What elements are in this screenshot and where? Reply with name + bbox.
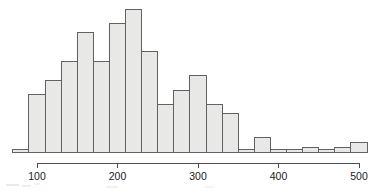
histogram-bar [29, 95, 45, 152]
histogram-bar [190, 76, 206, 152]
histogram-plot-area: 100200300400500 [0, 0, 374, 195]
histogram-bar [77, 33, 93, 152]
histogram-bar [303, 147, 319, 152]
histogram-figure: 100200300400500 [0, 0, 374, 195]
histogram-bar [13, 150, 29, 152]
histogram-bar [158, 104, 174, 152]
x-axis-tick-label: 500 [350, 170, 368, 182]
histogram-bar [93, 61, 109, 152]
histogram-bar [351, 142, 367, 152]
histogram-bar [287, 150, 303, 152]
x-axis-tick-label: 200 [109, 170, 127, 182]
histogram-bar [254, 138, 270, 152]
histogram-bar [126, 9, 142, 152]
histogram-bar [174, 90, 190, 152]
histogram-bar [319, 150, 335, 152]
x-axis-tick-label: 400 [270, 170, 288, 182]
histogram-bar [238, 150, 254, 152]
histogram-bar [109, 23, 125, 152]
histogram-bar [206, 104, 222, 152]
histogram-bar [270, 150, 286, 152]
histogram-bar [61, 61, 77, 152]
histogram-bar [142, 52, 158, 152]
x-axis-tick-label: 300 [189, 170, 207, 182]
x-axis-tick-label: 100 [28, 170, 46, 182]
histogram-bar [335, 147, 351, 152]
histogram-bar [45, 81, 61, 153]
histogram-bar [222, 114, 238, 152]
